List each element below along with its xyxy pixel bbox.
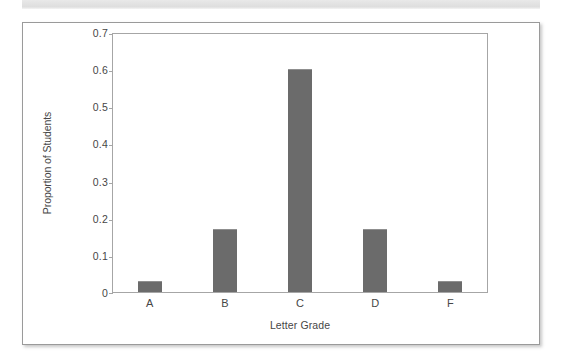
bar-a[interactable] xyxy=(138,281,162,292)
x-axis-tick-label: F xyxy=(413,297,488,309)
x-axis-tick-label: B xyxy=(187,297,262,309)
y-axis-tick-label: 0.4 xyxy=(93,138,108,150)
plot-inner xyxy=(113,34,487,292)
bar-slot xyxy=(412,34,487,292)
y-axis-tick-label: 0.5 xyxy=(93,101,108,113)
y-axis-tick-mark xyxy=(109,293,113,294)
y-axis-title: Proportion of Students xyxy=(40,33,54,293)
x-axis-tick-labels: ABCDF xyxy=(112,297,488,309)
bar-slot xyxy=(337,34,412,292)
y-axis-tick-mark xyxy=(109,220,113,221)
bar-slot xyxy=(113,34,188,292)
x-axis-title: Letter Grade xyxy=(112,319,488,331)
y-axis-tick-mark xyxy=(109,108,113,109)
page-scan-band xyxy=(22,0,540,9)
y-axis-tick-mark xyxy=(109,257,113,258)
y-axis-tick-mark xyxy=(109,71,113,72)
y-axis-tick-label: 0.1 xyxy=(93,250,108,262)
x-axis-tick-label: D xyxy=(338,297,413,309)
bar-b[interactable] xyxy=(213,229,237,292)
y-axis-tick-label: 0.2 xyxy=(93,213,108,225)
y-axis-tick-mark xyxy=(109,34,113,35)
y-axis-tick-mark xyxy=(109,183,113,184)
x-axis-tick-label: C xyxy=(262,297,337,309)
bar-d[interactable] xyxy=(363,229,387,292)
y-axis-tick-label: 0.6 xyxy=(93,64,108,76)
x-axis-tick-label: A xyxy=(112,297,187,309)
y-axis-tick-mark xyxy=(109,145,113,146)
y-axis-tick-label: 0.7 xyxy=(93,27,108,39)
y-axis-title-label: Proportion of Students xyxy=(41,112,53,214)
y-axis-tick-labels: 00.10.20.30.40.50.60.7 xyxy=(63,33,108,293)
y-axis-tick-label: 0 xyxy=(102,287,108,299)
bar-series xyxy=(113,34,487,292)
plot-area xyxy=(112,33,488,293)
y-axis-tick-label: 0.3 xyxy=(93,176,108,188)
chart-figure: Proportion of Students 00.10.20.30.40.50… xyxy=(22,22,540,345)
bar-f[interactable] xyxy=(438,281,462,292)
bar-c[interactable] xyxy=(288,69,312,292)
bar-slot xyxy=(263,34,338,292)
bar-slot xyxy=(188,34,263,292)
